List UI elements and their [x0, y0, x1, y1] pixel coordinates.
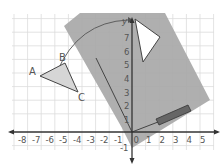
- svg-text:1: 1: [146, 135, 151, 145]
- svg-text:0: 0: [134, 135, 139, 145]
- y-axis-label: y: [121, 16, 128, 26]
- svg-text:4: 4: [124, 74, 129, 84]
- svg-text:-5: -5: [59, 135, 67, 145]
- triangle-abc: [40, 63, 78, 92]
- svg-text:-4: -4: [73, 135, 81, 145]
- x-axis: [8, 130, 220, 135]
- svg-text:2: 2: [160, 135, 165, 145]
- svg-text:-7: -7: [32, 135, 40, 145]
- svg-text:2: 2: [124, 101, 129, 111]
- svg-text:-6: -6: [46, 135, 54, 145]
- x-tick-labels: -8 -7 -6 -5 -4 -3 -2 -1 0 1 2 3 4 5: [18, 135, 205, 145]
- svg-text:5: 5: [124, 60, 129, 70]
- svg-text:4: 4: [187, 135, 192, 145]
- svg-text:-1: -1: [120, 143, 128, 153]
- svg-text:7: 7: [124, 33, 129, 43]
- vertex-label-a: A: [29, 66, 36, 77]
- svg-text:1: 1: [124, 115, 129, 125]
- coordinate-diagram: A B C y -8 -7 -6 -5 -4 -3 -2 -1 0 1 2 3 …: [0, 0, 224, 166]
- svg-text:-8: -8: [18, 135, 26, 145]
- svg-text:-3: -3: [87, 135, 95, 145]
- svg-text:6: 6: [124, 47, 129, 57]
- vertex-label-c: C: [78, 92, 85, 103]
- svg-text:5: 5: [200, 135, 205, 145]
- vertex-label-b: B: [59, 52, 66, 63]
- svg-text:3: 3: [124, 88, 129, 98]
- svg-text:-2: -2: [100, 135, 108, 145]
- svg-text:3: 3: [173, 135, 178, 145]
